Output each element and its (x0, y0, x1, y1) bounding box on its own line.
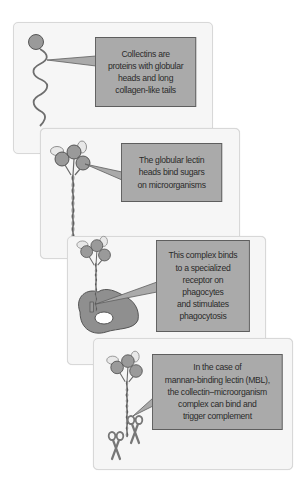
masp-scissors-icon-2 (128, 416, 143, 443)
callout-4: In the case of mannan-binding lectin (MB… (152, 354, 283, 430)
callout-4-pointer (133, 398, 153, 416)
masp-scissors-icon-1 (109, 432, 124, 459)
callout-4-text: In the case of mannan-binding lectin (MB… (165, 361, 270, 422)
